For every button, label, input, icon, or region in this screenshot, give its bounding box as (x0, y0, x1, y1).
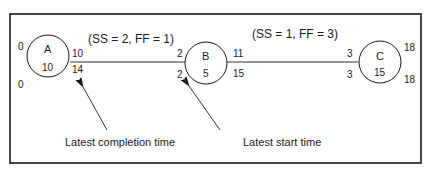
node-b-right-top: 11 (233, 48, 244, 59)
arrow-latest-completion (83, 87, 107, 130)
node-b-left-top: 2 (177, 48, 183, 59)
node-a-right-bottom: 14 (72, 64, 84, 75)
precedence-diagram: (SS = 2, FF = 1) (SS = 1, FF = 3) A 10 0… (0, 0, 429, 169)
edge-label-b-c: (SS = 1, FF = 3) (252, 27, 338, 41)
node-c-right-bottom: 18 (404, 74, 416, 85)
arrow-latest-start (189, 86, 220, 130)
node-c-left-top: 3 (347, 48, 353, 59)
node-c-label: C (376, 50, 384, 62)
node-b-left-bottom: 2 (177, 69, 183, 80)
node-b: B 5 2 2 11 15 (177, 42, 245, 84)
annotation-latest-start: Latest start time (243, 136, 321, 148)
node-a-duration: 10 (42, 62, 54, 73)
node-c-duration: 15 (374, 67, 386, 78)
node-a-right-top: 10 (72, 48, 84, 59)
node-a-left-top: 0 (18, 41, 24, 52)
node-b-label: B (202, 50, 209, 62)
node-c-left-bottom: 3 (347, 69, 353, 80)
node-b-right-bottom: 15 (233, 68, 245, 79)
node-a-left-bottom: 0 (18, 79, 24, 90)
node-c-right-top: 18 (404, 42, 416, 53)
node-c: C 15 3 3 18 18 (347, 41, 416, 85)
edge-label-a-b: (SS = 2, FF = 1) (88, 32, 174, 46)
node-b-duration: 5 (203, 68, 209, 79)
node-a: A 10 0 0 10 14 (18, 35, 84, 90)
node-a-label: A (44, 43, 52, 55)
annotation-latest-completion: Latest completion time (65, 136, 175, 148)
